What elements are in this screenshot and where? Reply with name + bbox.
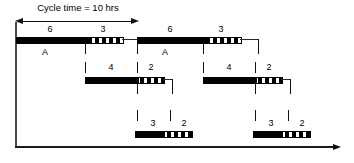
row2-drop-connector-2 <box>172 79 173 94</box>
row2-cycle2-solid-label: 4 <box>212 63 246 72</box>
row3-cycle1-dashed-bar <box>164 131 193 138</box>
row3-cycle1-dash-label: 2 <box>174 119 194 128</box>
cycle-time-arrow-left <box>15 18 23 24</box>
cycle-time-measure-line <box>20 21 135 22</box>
row2-drop-connector-4 <box>290 79 291 94</box>
row2-cycle2-dashed-bar <box>255 77 283 84</box>
row2-cycle1-dash-label: 2 <box>141 63 161 72</box>
row1-drop-connector-2 <box>137 42 138 54</box>
x-axis-arrowhead <box>333 144 341 150</box>
row1-drop-connector-1 <box>85 42 86 54</box>
row2-drop-connector-1 <box>137 82 138 94</box>
row2-cycle1-solid-bar <box>85 77 139 84</box>
row3-cycle2-solid-label: 3 <box>259 119 283 128</box>
x-axis <box>15 146 335 148</box>
row1-name-label-2: A <box>150 48 180 57</box>
cycle-time-label: Cycle time = 10 hrs <box>18 3 138 12</box>
row3-cycle2-dashed-bar <box>282 131 311 138</box>
row1-cycle2-tail-line <box>240 39 258 40</box>
row3-cycle1-start-tick <box>137 110 138 121</box>
row2-cycle1-solid-label: 4 <box>94 63 128 72</box>
row3-cycle2-solid-bar <box>253 131 284 138</box>
row1-cycle2-solid-label: 6 <box>150 25 190 34</box>
row1-cycle1-dash-label: 3 <box>83 25 123 34</box>
row3-cycle2-dash-label: 2 <box>292 119 312 128</box>
row2-cycle2-tail-line <box>281 79 290 80</box>
row1-name-label-1: A <box>30 48 60 57</box>
row2-cycle1-dashed-bar <box>137 77 165 84</box>
row2-cycle1-start-tick <box>85 62 86 73</box>
row1-cycle2-solid-bar <box>137 37 205 44</box>
row2-cycle2-solid-bar <box>203 77 257 84</box>
cycle-time-arrow-right <box>131 18 139 24</box>
row3-cycle2-start-tick <box>255 110 256 121</box>
row2-cycle2-dash-label: 2 <box>259 63 279 72</box>
row1-cycle2-dash-label: 3 <box>201 25 241 34</box>
row1-drop-connector-4 <box>258 39 259 54</box>
row2-cycle2-start-tick <box>203 62 204 73</box>
row1-drop-connector-3 <box>203 42 204 54</box>
row2-cycle1-mid-tick <box>137 62 138 73</box>
row1-cycle2-dashed-bar <box>203 37 242 44</box>
row1-cycle1-tail-line <box>122 39 137 40</box>
row2-cycle2-mid-tick <box>255 62 256 73</box>
row1-cycle1-solid-bar <box>16 37 87 44</box>
row3-cycle1-solid-label: 3 <box>141 119 165 128</box>
row3-cycle2-mid-tick <box>288 110 289 121</box>
row1-cycle1-solid-label: 6 <box>30 25 70 34</box>
row1-cycle1-dashed-bar <box>85 37 124 44</box>
gantt-cycle-chart: Cycle time = 10 hrs 6 3 6 3 A A 4 2 4 2 … <box>0 0 354 163</box>
row2-drop-connector-3 <box>255 82 256 94</box>
row2-cycle1-tail-line <box>163 79 172 80</box>
row3-cycle1-mid-tick <box>170 110 171 121</box>
row3-cycle1-solid-bar <box>135 131 166 138</box>
